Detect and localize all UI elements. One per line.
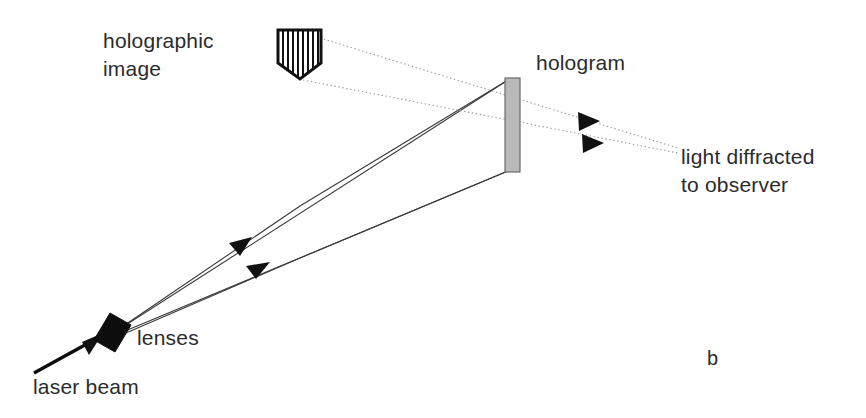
- label-lenses: lenses: [137, 326, 199, 349]
- ray-plate-top-to-object: [300, 80, 508, 206]
- label-laser-beam: laser beam: [33, 375, 139, 398]
- label-light-diffracted-line1: light diffracted: [681, 145, 815, 168]
- holography-reconstruction-diagram: holographic image hologram light diffrac…: [0, 0, 866, 418]
- label-holographic-image-line2: image: [103, 57, 161, 80]
- laser-source-assembly: [34, 313, 131, 373]
- arrowhead-diffracted-upper-icon: [578, 112, 600, 131]
- lens-block: [94, 313, 131, 352]
- label-holographic-image-line1: holographic: [103, 29, 214, 52]
- hologram-plate: [505, 78, 520, 172]
- ray-object-edge: [116, 206, 300, 331]
- arrowhead-diffracted-lower-icon: [582, 134, 604, 153]
- figure-root: holographic image hologram light diffrac…: [0, 0, 866, 418]
- ray-object-lower-edge: [119, 258, 300, 336]
- pentagon-outline: [278, 30, 321, 79]
- label-hologram: hologram: [536, 51, 625, 74]
- dotted-ray-arrowheads: [578, 112, 604, 153]
- holographic-object: [278, 28, 321, 82]
- arrowhead-beam-lower-icon: [246, 262, 270, 279]
- solid-ray-group: [116, 80, 508, 336]
- label-light-diffracted-line2: to observer: [681, 173, 788, 196]
- panel-letter: b: [707, 347, 718, 369]
- ray-beam-upper-to-plate-top: [118, 80, 508, 330]
- ray-plate-bottom-to-object: [300, 171, 508, 258]
